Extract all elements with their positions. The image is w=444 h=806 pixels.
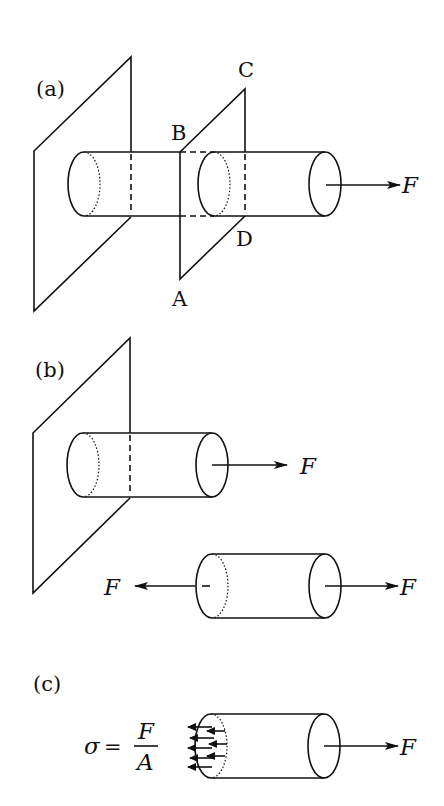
force-label-c: F: [399, 734, 417, 760]
bar-a-right: [198, 152, 341, 216]
panel-c-label: (c): [33, 672, 61, 696]
panel-b: (b) F F F: [33, 338, 417, 618]
bar-b-fixed: [67, 433, 228, 497]
force-label-b-free-left: F: [103, 574, 121, 600]
formula-denominator: A: [135, 749, 154, 775]
formula-sigma: σ: [84, 733, 101, 759]
stress-distribution-arrows: [188, 727, 227, 767]
point-B-label: B: [171, 121, 186, 145]
bar-a-left: [68, 152, 180, 216]
stress-formula: σ = F A: [84, 718, 158, 775]
point-D-label: D: [236, 227, 253, 251]
formula-equals: =: [104, 735, 122, 759]
bar-b-free-body: [196, 554, 341, 618]
force-label-b-fixed: F: [299, 453, 317, 479]
force-label-b-free-right: F: [399, 574, 417, 600]
panel-a: (a) B C D A: [34, 57, 419, 311]
tension-bar-diagram: (a) B C D A: [0, 0, 444, 806]
point-C-label: C: [238, 58, 254, 82]
panel-c: (c) σ = F A F: [33, 672, 417, 778]
bar-c: [195, 714, 340, 778]
point-A-label: A: [171, 287, 188, 311]
panel-a-label: (a): [36, 77, 65, 101]
force-label-a: F: [401, 172, 419, 198]
formula-numerator: F: [137, 718, 155, 744]
panel-b-label: (b): [35, 358, 65, 382]
